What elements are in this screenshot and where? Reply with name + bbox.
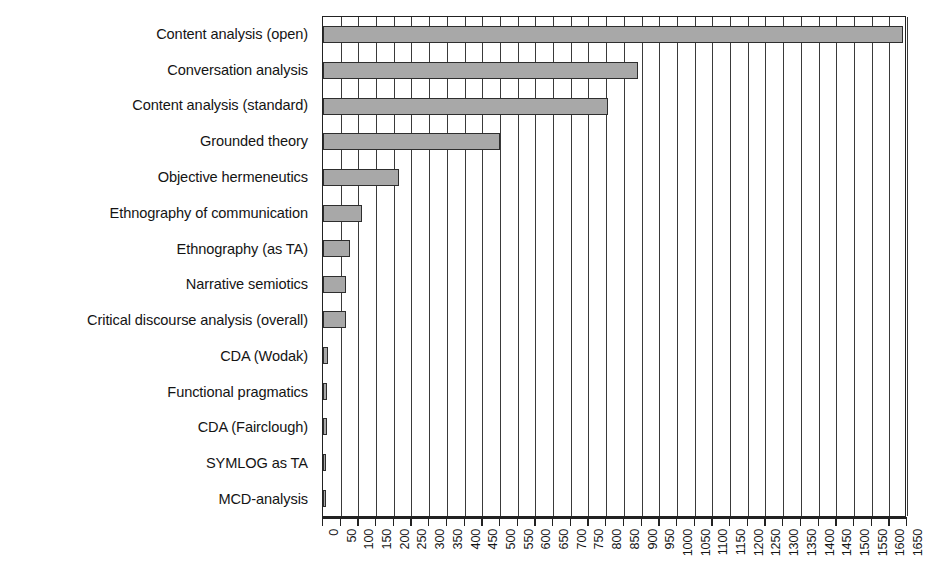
bar: [323, 454, 326, 471]
axis-tick-label: 400: [469, 529, 483, 549]
bar-row: [323, 338, 905, 374]
bar-row: [323, 88, 905, 124]
axis-tick-label: 250: [415, 529, 429, 549]
category-row: Content analysis (open): [0, 16, 316, 52]
axis-tick: [676, 517, 677, 526]
axis-tick: [464, 517, 465, 526]
axis-tick-label: 50: [345, 529, 359, 543]
axis-tick: [322, 517, 323, 526]
axis-tick-label: 1150: [734, 529, 748, 555]
bar-row: [323, 160, 905, 196]
category-label: Content analysis (standard): [132, 97, 308, 113]
axis-tick: [552, 517, 553, 526]
axis-tick-label: 1500: [858, 529, 872, 556]
bar-row: [323, 302, 905, 338]
axis-tick: [570, 517, 571, 526]
axis-tick-label: 1250: [769, 529, 783, 556]
category-label: Narrative semiotics: [186, 276, 308, 292]
bar-row: [323, 445, 905, 481]
axis-tick-label: 1600: [893, 529, 907, 556]
axis-tick-label: 1650: [911, 529, 925, 556]
axis-tick-label: 300: [433, 529, 447, 549]
axis-tick-label: 900: [646, 529, 660, 549]
category-row: Objective hermeneutics: [0, 159, 316, 195]
axis-tick-label: 700: [575, 529, 589, 549]
axis-tick-label: 550: [522, 529, 536, 549]
axis-tick-label: 800: [610, 529, 624, 549]
bar: [323, 240, 350, 257]
axis-tick-label: 950: [663, 529, 677, 549]
bar: [323, 26, 903, 43]
axis-tick: [711, 517, 712, 526]
category-row: MCD-analysis: [0, 481, 316, 517]
category-row: Grounded theory: [0, 123, 316, 159]
category-row: Ethnography of communication: [0, 195, 316, 231]
axis-tick: [835, 517, 836, 526]
category-label: Functional pragmatics: [167, 384, 308, 400]
axis-tick: [800, 517, 801, 526]
category-row: Functional pragmatics: [0, 374, 316, 410]
axis-tick: [446, 517, 447, 526]
axis-tick-label: 0: [327, 529, 341, 536]
category-row: Conversation analysis: [0, 52, 316, 88]
axis-tick: [428, 517, 429, 526]
bar: [323, 205, 362, 222]
bar: [323, 383, 327, 400]
axis-tick: [375, 517, 376, 526]
category-label: Grounded theory: [200, 133, 308, 149]
axis-tick: [764, 517, 765, 526]
axis-tick-label: 1400: [823, 529, 837, 556]
bar-row: [323, 409, 905, 445]
axis-tick: [782, 517, 783, 526]
axis-tick: [623, 517, 624, 526]
axis-tick: [410, 517, 411, 526]
axis-tick: [853, 517, 854, 526]
bar-row: [323, 373, 905, 409]
value-axis: 0501001502002503003504004505005506006507…: [322, 517, 906, 587]
bar-row: [323, 53, 905, 89]
axis-tick: [888, 517, 889, 526]
category-axis: Content analysis (open)Conversation anal…: [0, 16, 316, 517]
category-label: CDA (Fairclough): [198, 419, 308, 435]
axis-tick: [906, 517, 907, 526]
axis-tick: [605, 517, 606, 526]
bar-row: [323, 124, 905, 160]
bar: [323, 169, 399, 186]
bar: [323, 490, 326, 507]
bar-row: [323, 195, 905, 231]
bar: [323, 133, 500, 150]
axis-tick: [587, 517, 588, 526]
axis-tick: [499, 517, 500, 526]
axis-tick: [658, 517, 659, 526]
axis-tick-label: 150: [380, 529, 394, 549]
axis-tick: [534, 517, 535, 526]
bar: [323, 276, 346, 293]
bar-row: [323, 266, 905, 302]
category-row: CDA (Fairclough): [0, 410, 316, 446]
axis-tick-label: 1200: [752, 529, 766, 556]
axis-tick-label: 650: [557, 529, 571, 549]
category-label: SYMLOG as TA: [206, 455, 308, 471]
axis-tick-label: 1050: [699, 529, 713, 556]
bar-row: [323, 480, 905, 516]
axis-tick-label: 1100: [716, 529, 730, 555]
axis-tick-label: 450: [486, 529, 500, 549]
axis-tick-label: 1550: [876, 529, 890, 556]
axis-tick-label: 750: [592, 529, 606, 549]
axis-tick: [357, 517, 358, 526]
category-label: CDA (Wodak): [220, 348, 308, 364]
axis-tick-label: 1300: [787, 529, 801, 556]
horizontal-bar-chart: Content analysis (open)Conversation anal…: [0, 0, 946, 587]
gridline: [907, 17, 908, 516]
bar: [323, 311, 346, 328]
axis-tick: [818, 517, 819, 526]
category-label: Critical discourse analysis (overall): [87, 312, 308, 328]
axis-tick-label: 200: [398, 529, 412, 549]
category-row: Content analysis (standard): [0, 88, 316, 124]
bar: [323, 62, 638, 79]
category-row: Narrative semiotics: [0, 266, 316, 302]
axis-tick: [641, 517, 642, 526]
category-label: Objective hermeneutics: [158, 169, 308, 185]
category-row: Critical discourse analysis (overall): [0, 302, 316, 338]
bar: [323, 98, 608, 115]
